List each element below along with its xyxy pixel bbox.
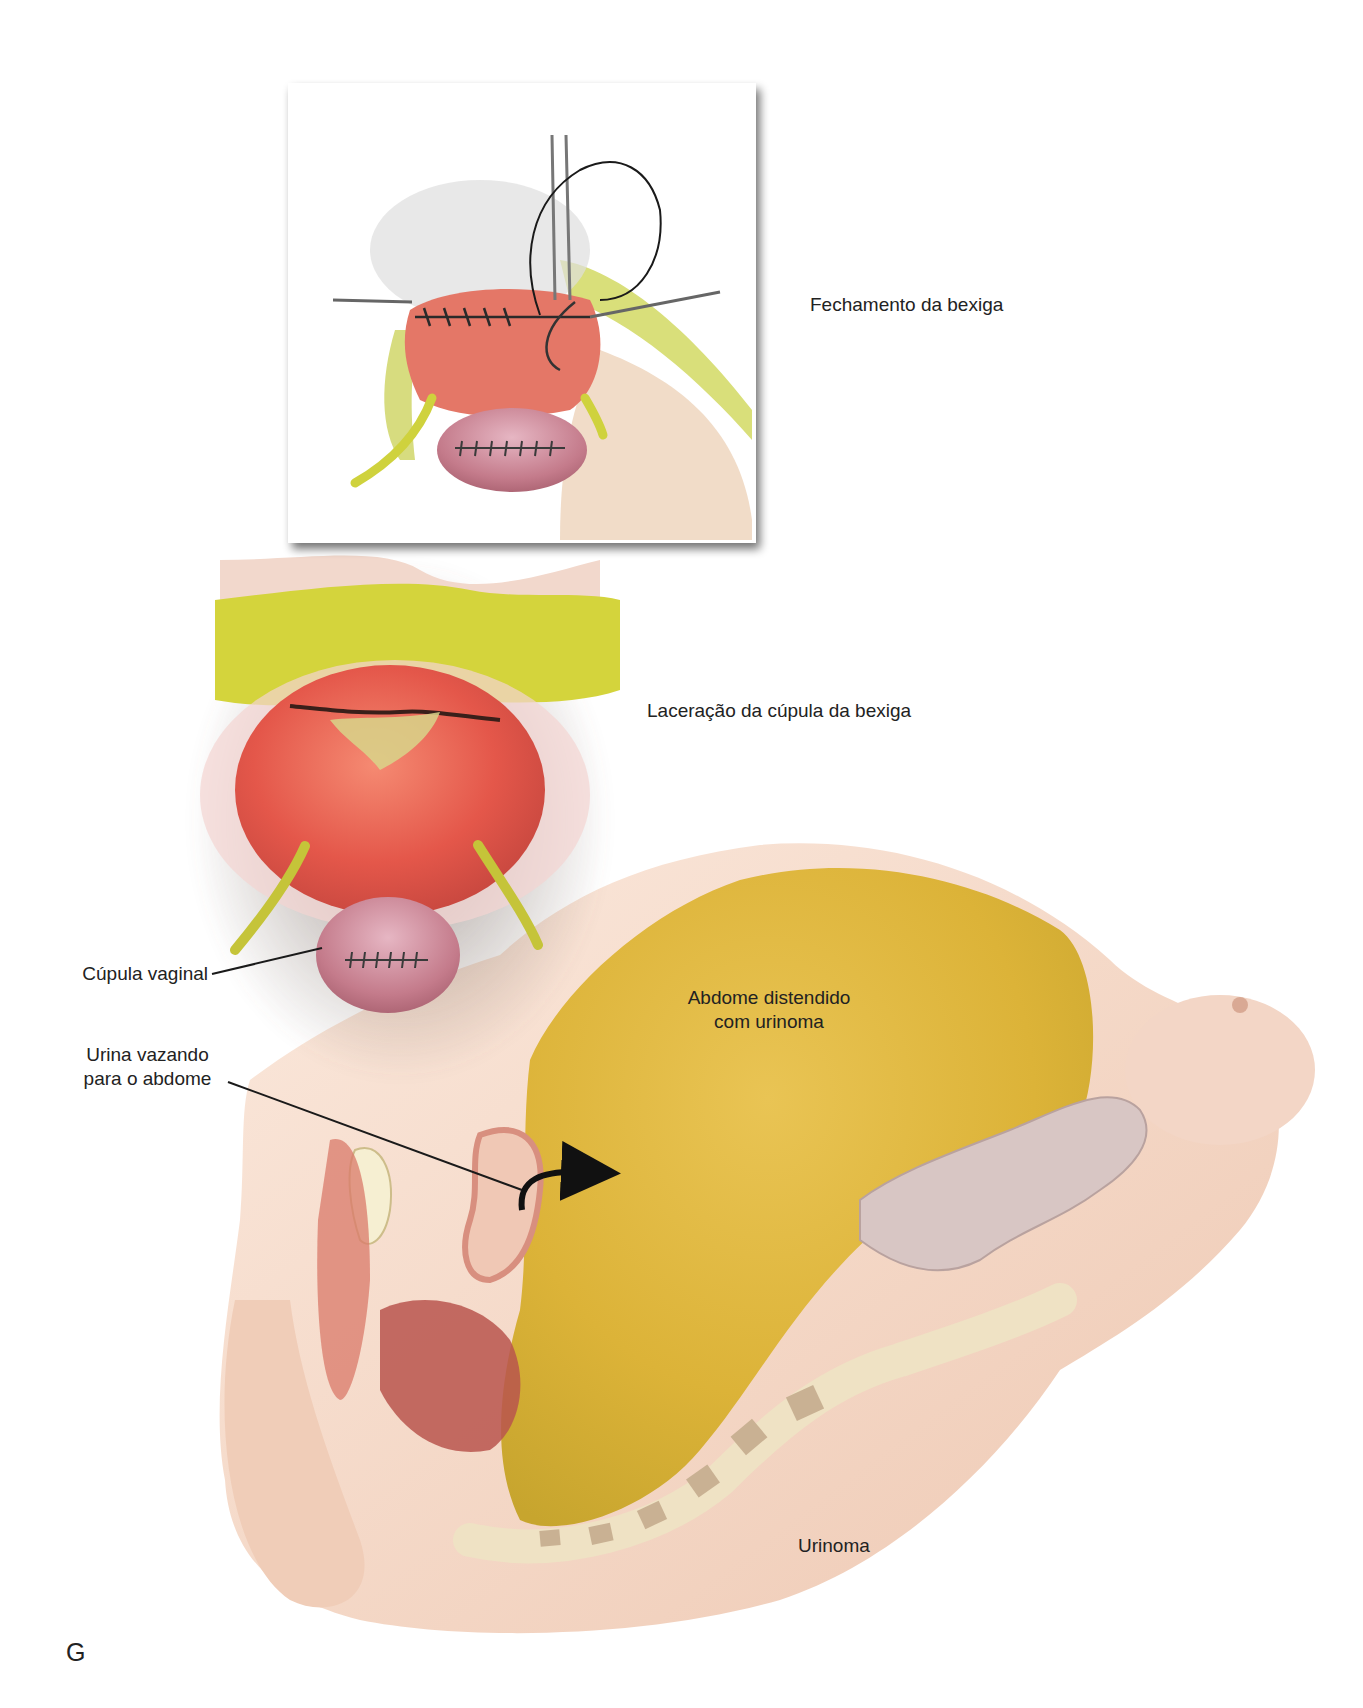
- medical-illustration: [0, 0, 1363, 1708]
- label-urinoma: Urinoma: [798, 1534, 870, 1558]
- breast: [1125, 995, 1315, 1145]
- panel-letter: G: [66, 1638, 85, 1667]
- label-urine-leak-line2: para o abdome: [70, 1067, 225, 1091]
- label-bladder-closure: Fechamento da bexiga: [810, 293, 1003, 317]
- inset-vaginal-cuff: [437, 408, 587, 492]
- label-bladder-dome-laceration: Laceração da cúpula da bexiga: [647, 699, 911, 723]
- nipple: [1232, 997, 1248, 1013]
- label-distended-abdomen: Abdome distendido com urinoma: [664, 986, 874, 1034]
- left-retractor[interactable]: [333, 300, 412, 302]
- label-vaginal-cuff: Cúpula vaginal: [60, 962, 208, 986]
- label-distended-abdomen-line2: com urinoma: [664, 1010, 874, 1034]
- label-urine-leak-line1: Urina vazando: [70, 1043, 225, 1067]
- vaginal-cuff: [316, 897, 460, 1013]
- label-urine-leak: Urina vazando para o abdome: [70, 1043, 225, 1091]
- label-distended-abdomen-line1: Abdome distendido: [664, 986, 874, 1010]
